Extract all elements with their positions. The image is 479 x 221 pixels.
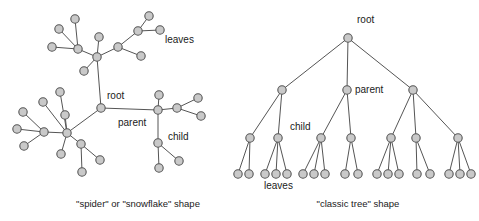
tree-node[interactable]: [48, 43, 56, 51]
tree-node[interactable]: [278, 86, 286, 94]
tree-node[interactable]: [426, 170, 434, 178]
tree-edge: [97, 57, 101, 108]
tree-node[interactable]: [40, 128, 48, 136]
tree-node[interactable]: [20, 142, 28, 150]
tree-node[interactable]: [137, 52, 145, 60]
tree-edge: [101, 108, 158, 110]
tree-node[interactable]: [78, 168, 86, 176]
tree-node[interactable]: [57, 150, 65, 158]
tree-edge: [391, 90, 413, 138]
node-label-parent: parent: [118, 117, 147, 128]
tree-node[interactable]: [395, 170, 403, 178]
tree-edge: [347, 90, 351, 138]
tree-node[interactable]: [154, 106, 162, 114]
tree-node[interactable]: [156, 26, 164, 34]
tree-edge: [413, 90, 416, 138]
tree-edge: [250, 90, 282, 138]
tree-node[interactable]: [95, 33, 103, 41]
tree-node[interactable]: [93, 53, 101, 61]
tree-node[interactable]: [341, 170, 349, 178]
tree-edge: [321, 90, 347, 138]
tree-node[interactable]: [155, 91, 163, 99]
tree-edge: [321, 138, 325, 174]
node-label-child: child: [168, 131, 189, 142]
tree-node[interactable]: [114, 43, 122, 51]
panel-caption-classic: "classic tree" shape: [317, 198, 400, 209]
tree-node[interactable]: [272, 170, 280, 178]
tree-node[interactable]: [310, 170, 318, 178]
edge-group: [238, 38, 471, 174]
tree-node[interactable]: [384, 170, 392, 178]
tree-node[interactable]: [234, 170, 242, 178]
tree-node[interactable]: [343, 86, 351, 94]
tree-node[interactable]: [467, 170, 475, 178]
tree-node[interactable]: [145, 12, 153, 20]
tree-node[interactable]: [71, 15, 79, 23]
tree-node[interactable]: [154, 139, 162, 147]
tree-node[interactable]: [96, 156, 104, 164]
tree-node[interactable]: [299, 170, 307, 178]
node-label-leaves: leaves: [264, 180, 293, 191]
tree-edge: [278, 138, 287, 174]
tree-node[interactable]: [80, 67, 88, 75]
tree-node[interactable]: [19, 108, 27, 116]
tree-node[interactable]: [261, 170, 269, 178]
tree-edge: [303, 138, 321, 174]
tree-shapes-figure: rootparentchildleaves"spider" or "snowfl…: [0, 0, 479, 221]
node-label-root: root: [107, 90, 124, 101]
tree-node[interactable]: [413, 170, 421, 178]
tree-node[interactable]: [194, 94, 202, 102]
tree-node[interactable]: [13, 125, 21, 133]
tree-edge: [249, 138, 250, 174]
tree-edge: [416, 138, 430, 174]
tree-node[interactable]: [55, 25, 63, 33]
tree-node[interactable]: [245, 170, 253, 178]
tree-edge: [345, 138, 351, 174]
tree-node[interactable]: [317, 134, 325, 142]
tree-node[interactable]: [347, 134, 355, 142]
tree-edge: [238, 138, 250, 174]
tree-node[interactable]: [97, 104, 105, 112]
tree-edge: [391, 138, 399, 174]
tree-edge: [282, 38, 348, 90]
tree-node[interactable]: [344, 34, 352, 42]
tree-node[interactable]: [56, 88, 64, 96]
tree-node[interactable]: [456, 170, 464, 178]
node-label-root: root: [357, 14, 374, 25]
tree-node[interactable]: [387, 134, 395, 142]
tree-node[interactable]: [412, 134, 420, 142]
tree-node[interactable]: [77, 140, 85, 148]
tree-node[interactable]: [445, 170, 453, 178]
tree-node[interactable]: [61, 111, 69, 119]
tree-edge: [348, 38, 413, 90]
figure-canvas: rootparentchildleaves"spider" or "snowfl…: [0, 0, 479, 221]
tree-node[interactable]: [173, 104, 181, 112]
tree-edge: [67, 108, 101, 133]
tree-node[interactable]: [373, 170, 381, 178]
tree-node[interactable]: [155, 164, 163, 172]
node-label-child: child: [290, 121, 311, 132]
tree-edge: [278, 90, 282, 138]
panel-spider: rootparentchildleaves"spider" or "snowfl…: [13, 12, 205, 209]
tree-node[interactable]: [175, 157, 183, 165]
tree-node[interactable]: [197, 112, 205, 120]
tree-node[interactable]: [409, 86, 417, 94]
tree-edge: [449, 138, 458, 174]
tree-node[interactable]: [354, 170, 362, 178]
tree-edge: [416, 138, 417, 174]
tree-node[interactable]: [454, 134, 462, 142]
tree-node[interactable]: [39, 98, 47, 106]
panel-caption-spider: "spider" or "snowflake" shape: [76, 198, 200, 209]
tree-edge: [351, 138, 358, 174]
tree-node[interactable]: [246, 134, 254, 142]
tree-edge: [314, 138, 321, 174]
tree-edge: [413, 90, 458, 138]
tree-node[interactable]: [134, 27, 142, 35]
tree-node[interactable]: [283, 170, 291, 178]
tree-node[interactable]: [63, 129, 71, 137]
tree-node[interactable]: [321, 170, 329, 178]
tree-edge: [347, 38, 348, 90]
tree-node[interactable]: [74, 45, 82, 53]
tree-node[interactable]: [274, 134, 282, 142]
node-label-parent: parent: [355, 84, 384, 95]
